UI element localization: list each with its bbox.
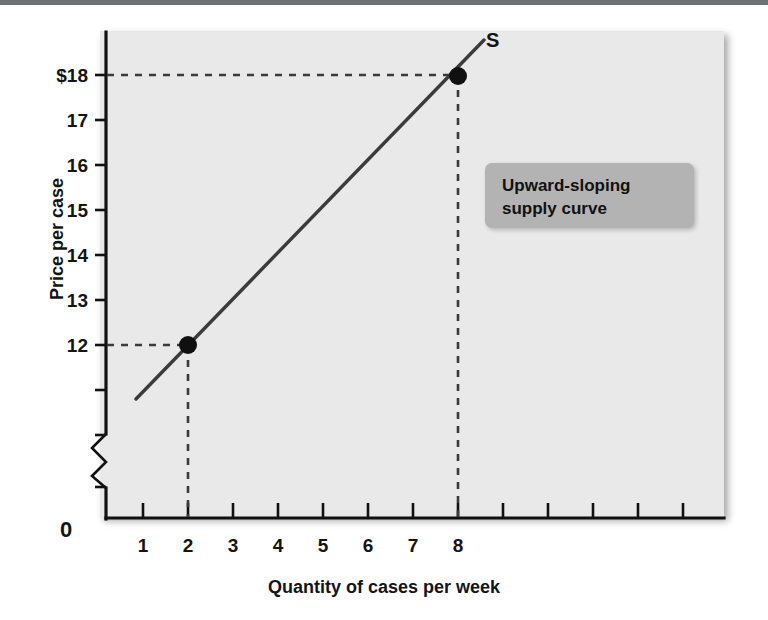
x-axis-title: Quantity of cases per week	[0, 578, 768, 596]
chart-canvas	[0, 0, 768, 620]
annotation-callout-text: Upward-sloping supply curve	[502, 175, 630, 221]
y-tick-label-17: 17	[20, 111, 88, 130]
annotation-line-1: Upward-sloping	[502, 175, 630, 198]
y-tick-label-12: 12	[20, 336, 88, 355]
x-tick-label-5: 5	[318, 536, 329, 555]
data-point-2-12	[179, 336, 197, 354]
data-point-8-18	[449, 67, 467, 85]
x-tick-label-1: 1	[138, 536, 149, 555]
x-tick-label-4: 4	[273, 536, 284, 555]
y-tick-label-18: $18	[20, 66, 88, 85]
x-tick-label-7: 7	[408, 536, 419, 555]
y-axis-title: Price per case	[48, 169, 66, 309]
supply-curve-figure: $18 17 16 15 14 13 12 0 1 2 3 4 5 6 7 8 …	[0, 0, 768, 620]
axis-origin-label: 0	[60, 519, 72, 541]
supply-curve-label: S	[486, 30, 499, 50]
x-tick-label-2: 2	[183, 536, 194, 555]
annotation-line-2: supply curve	[502, 198, 630, 221]
x-tick-label-8: 8	[453, 536, 464, 555]
x-tick-label-3: 3	[228, 536, 239, 555]
x-tick-label-6: 6	[363, 536, 374, 555]
y-axis-break-icon	[92, 434, 106, 488]
annotation-callout: Upward-sloping supply curve	[485, 163, 694, 228]
